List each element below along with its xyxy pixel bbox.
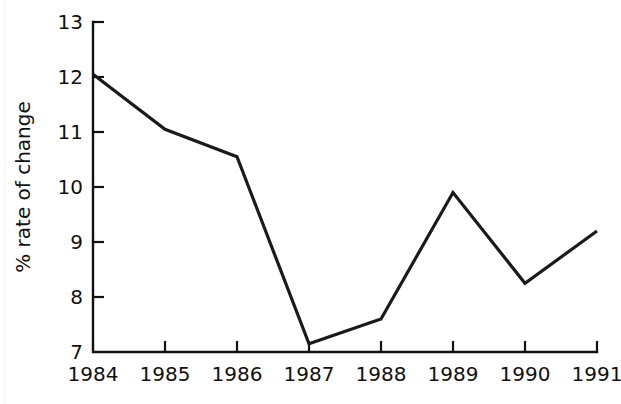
x-axis-tick-label: 1991: [572, 362, 621, 386]
x-axis-tick-label: 1986: [212, 362, 263, 386]
series-line-rate-of-change: [93, 74, 597, 344]
x-axis-tick-label: 1987: [284, 362, 335, 386]
y-axis-tick-label: 10: [58, 175, 83, 199]
y-axis-tick-label: 8: [70, 285, 83, 309]
chart-canvas: 78910111213 1984198519861987198819891990…: [0, 0, 621, 404]
y-axis-title: % rate of change: [11, 101, 35, 273]
x-axis-tick-marks: [165, 341, 597, 352]
x-axis-tick-label: 1985: [140, 362, 191, 386]
line-chart-figure: 78910111213 1984198519861987198819891990…: [0, 0, 621, 404]
axes-group: [93, 22, 597, 352]
y-axis-tick-label: 12: [58, 65, 83, 89]
x-axis-tick-label: 1984: [68, 362, 119, 386]
x-axis-tick-label: 1989: [428, 362, 479, 386]
axis-spine: [93, 22, 597, 352]
y-axis-title-group: % rate of change: [11, 101, 35, 273]
x-axis-tick-label: 1988: [356, 362, 407, 386]
y-axis-tick-label: 13: [58, 10, 83, 34]
y-axis-tick-label: 7: [70, 340, 83, 364]
x-axis-tick-labels: 19841985198619871988198919901991: [68, 362, 621, 386]
x-axis-tick-label: 1990: [500, 362, 551, 386]
data-series-group: [93, 74, 597, 344]
y-axis-tick-labels: 78910111213: [58, 10, 83, 364]
y-axis-tick-marks: [93, 22, 104, 297]
y-axis-tick-label: 11: [58, 120, 83, 144]
y-axis-tick-label: 9: [70, 230, 83, 254]
